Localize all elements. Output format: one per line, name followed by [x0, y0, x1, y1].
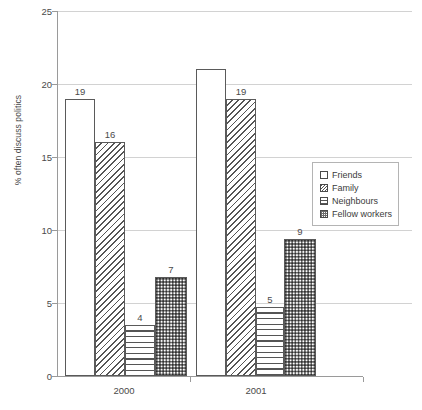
bar-2001-family — [226, 99, 256, 376]
legend-item-family[interactable]: Family — [320, 181, 392, 194]
legend-label-neighbours: Neighbours — [332, 196, 378, 206]
legend-label-fellow-workers: Fellow workers — [332, 209, 392, 219]
x-category-2001: 2001 — [245, 385, 266, 396]
y-tick-10: 10 — [24, 225, 52, 236]
x-tickmark-group-divider — [190, 377, 191, 382]
legend-swatch-fellow-workers-icon — [320, 210, 328, 218]
bar-value-2001-fellow-workers: 9 — [297, 226, 302, 237]
legend-item-fellow-workers[interactable]: Fellow workers — [320, 207, 392, 220]
bar-value-2000-friends: 19 — [75, 86, 86, 97]
legend-swatch-friends-icon — [320, 171, 328, 179]
x-tickmark-end — [363, 377, 364, 382]
bar-2001-fellow-workers — [284, 239, 316, 376]
legend-item-neighbours[interactable]: Neighbours — [320, 194, 392, 207]
bar-value-2001-neighbours: 5 — [267, 294, 272, 305]
bar-2000-family — [95, 142, 125, 376]
y-axis-ticks: 25 20 15 10 5 0 — [0, 0, 52, 410]
legend-item-friends[interactable]: Friends — [320, 168, 392, 181]
legend-label-family: Family — [332, 183, 359, 193]
legend: Friends Family Neighbours Fellow workers — [312, 162, 399, 226]
x-axis-line — [57, 376, 363, 377]
y-tick-5: 5 — [24, 298, 52, 309]
y-axis-line — [57, 11, 58, 377]
bar-2000-neighbours — [125, 325, 155, 376]
legend-label-friends: Friends — [332, 170, 362, 180]
bar-value-2000-neighbours: 4 — [137, 312, 142, 323]
bar-2000-fellow-workers — [155, 277, 187, 376]
bar-2001-friends — [196, 69, 226, 376]
bar-value-2000-family: 16 — [105, 129, 116, 140]
bar-chart: % often discuss politics 25 20 15 10 5 0… — [0, 0, 422, 410]
legend-swatch-neighbours-icon — [320, 197, 328, 205]
y-tick-0: 0 — [24, 371, 52, 382]
bar-2000-friends — [65, 99, 95, 376]
x-category-2000: 2000 — [113, 385, 134, 396]
y-tick-20: 20 — [24, 79, 52, 90]
bar-value-2001-family: 19 — [236, 86, 247, 97]
y-tick-15: 15 — [24, 152, 52, 163]
y-tick-25: 25 — [24, 6, 52, 17]
gridline-25 — [57, 11, 412, 12]
bar-2001-neighbours — [256, 307, 284, 376]
gridline-20 — [57, 84, 412, 85]
legend-swatch-family-icon — [320, 184, 328, 192]
bar-value-2000-fellow-workers: 7 — [168, 264, 173, 275]
